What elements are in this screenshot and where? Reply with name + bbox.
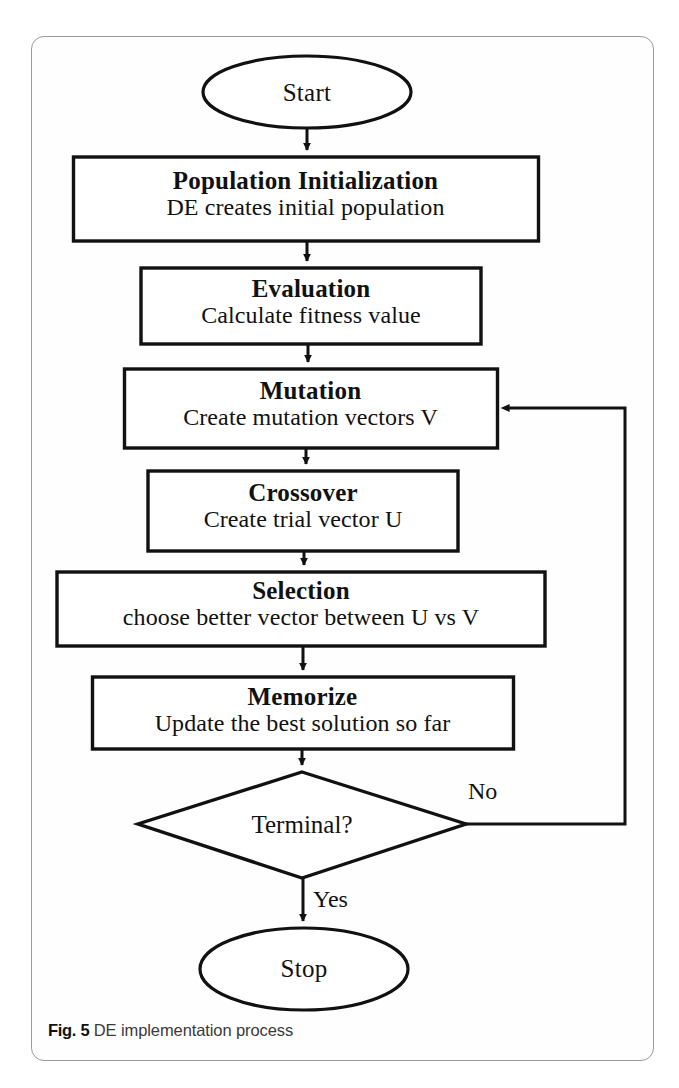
node-crossover-title: Crossover	[148, 480, 458, 506]
node-evaluation-subtitle: Calculate fitness value	[141, 303, 481, 327]
node-evaluation-label: Evaluation Calculate fitness value	[141, 276, 481, 327]
figure-root: Start Population Initialization DE creat…	[0, 0, 679, 1088]
node-evaluation-title: Evaluation	[141, 276, 481, 302]
node-population-label: Population Initialization DE creates ini…	[73, 168, 538, 219]
node-crossover-subtitle: Create trial vector U	[148, 507, 458, 531]
node-memorize-subtitle: Update the best solution so far	[92, 711, 513, 735]
node-selection-subtitle: choose better vector between U vs V	[57, 605, 545, 629]
figure-caption-text: DE implementation process	[89, 1021, 293, 1039]
node-memorize-label: Memorize Update the best solution so far	[92, 684, 513, 735]
node-mutation-title: Mutation	[124, 378, 497, 404]
node-selection-label: Selection choose better vector between U…	[57, 578, 545, 629]
node-terminal-label: Terminal?	[198, 812, 406, 838]
node-crossover-label: Crossover Create trial vector U	[148, 480, 458, 531]
node-selection-title: Selection	[57, 578, 545, 604]
node-stop-label: Stop	[200, 956, 408, 982]
edge-label-yes: Yes	[313, 886, 348, 913]
node-mutation-label: Mutation Create mutation vectors V	[124, 378, 497, 429]
node-start-label: Start	[203, 80, 411, 106]
node-population-subtitle: DE creates initial population	[73, 195, 538, 219]
figure-caption-number: Fig. 5	[48, 1021, 89, 1039]
node-population-title: Population Initialization	[73, 168, 538, 194]
edge-label-no: No	[468, 778, 497, 805]
figure-caption: Fig. 5 DE implementation process	[48, 1021, 293, 1040]
node-mutation-subtitle: Create mutation vectors V	[124, 405, 497, 429]
node-memorize-title: Memorize	[92, 684, 513, 710]
